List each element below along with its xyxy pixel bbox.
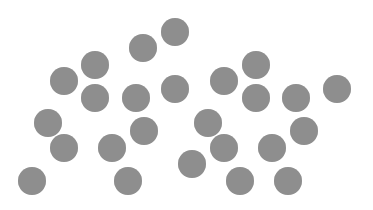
circle-dot [323, 75, 351, 103]
circle-dot [194, 109, 222, 137]
circle-dot [129, 34, 157, 62]
circle-dot [130, 117, 158, 145]
circle-dot [114, 167, 142, 195]
circle-dot [274, 167, 302, 195]
circle-dot [210, 134, 238, 162]
circle-dot [81, 84, 109, 112]
circle-dot [81, 51, 109, 79]
circle-dot [161, 75, 189, 103]
circle-dot [34, 109, 62, 137]
circle-dot [98, 134, 126, 162]
circle-dot [290, 117, 318, 145]
circle-dot [226, 167, 254, 195]
circle-dot [18, 167, 46, 195]
circle-dot [258, 134, 286, 162]
circle-dot [210, 67, 238, 95]
circle-dot [50, 67, 78, 95]
circle-dot [178, 150, 206, 178]
circle-dot [242, 84, 270, 112]
dot-field [0, 0, 373, 210]
circle-dot [161, 18, 189, 46]
circle-dot [242, 51, 270, 79]
circle-dot [122, 84, 150, 112]
circle-dot [50, 134, 78, 162]
circle-dot [282, 84, 310, 112]
